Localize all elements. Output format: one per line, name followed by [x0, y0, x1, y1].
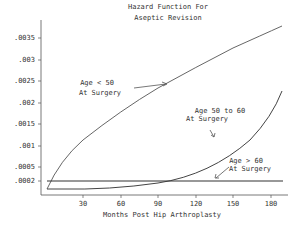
- svg-text:.0005: .0005: [14, 163, 35, 171]
- svg-text:60: 60: [117, 200, 125, 208]
- svg-text:Age 50 to 60: Age 50 to 60: [195, 107, 246, 115]
- hazard-chart: Hazard Function For Aseptic Revision .00…: [0, 0, 299, 227]
- arrow-icon: [216, 167, 229, 178]
- svg-text:Age > 60: Age > 60: [229, 157, 263, 165]
- annotation-age-under-50: Age < 50 At Surgery: [79, 79, 167, 97]
- svg-text:.0025: .0025: [14, 77, 35, 85]
- svg-text:180: 180: [265, 200, 278, 208]
- svg-text:30: 30: [79, 200, 87, 208]
- svg-text:90: 90: [154, 200, 162, 208]
- annotation-age-over-60: Age > 60 At Surgery: [215, 157, 271, 178]
- svg-text:.002: .002: [18, 99, 35, 107]
- svg-text:.003: .003: [18, 56, 35, 64]
- svg-text:120: 120: [190, 200, 203, 208]
- svg-text:.0002: .0002: [14, 177, 35, 185]
- y-ticks: .0035 .003 .0025 .002 .0015 .001 .0005 .…: [14, 34, 41, 185]
- chart-title: Hazard Function For: [128, 3, 208, 11]
- svg-text:.001: .001: [18, 142, 35, 150]
- svg-text:.0035: .0035: [14, 34, 35, 42]
- svg-text:Age < 50: Age < 50: [80, 79, 114, 87]
- svg-text:At Surgery: At Surgery: [79, 89, 121, 97]
- svg-text:.0015: .0015: [14, 120, 35, 128]
- annotation-age-50-to-60: Age 50 to 60 At Surgery: [186, 107, 245, 137]
- svg-text:At Surgery: At Surgery: [229, 165, 271, 173]
- svg-text:150: 150: [227, 200, 240, 208]
- x-ticks: 30 60 90 120 150 180: [79, 195, 278, 208]
- svg-text:At Surgery: At Surgery: [186, 115, 228, 123]
- x-axis-label: Months Post Hip Arthroplasty: [103, 211, 221, 219]
- chart-subtitle: Aseptic Revision: [134, 14, 201, 22]
